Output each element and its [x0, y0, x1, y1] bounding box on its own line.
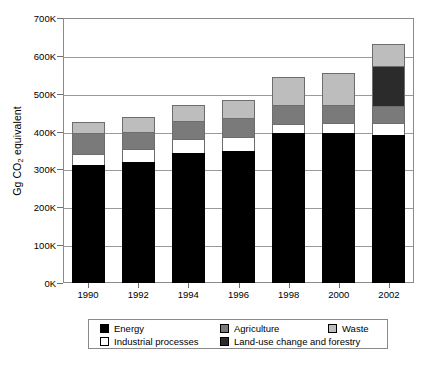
bar-segment-1994-waste[interactable]: [172, 105, 205, 121]
y-tick-label-500K: 500K: [20, 88, 56, 99]
x-tick-mark-1994: [188, 283, 189, 288]
bar-segment-2000-industrial-processes[interactable]: [322, 123, 355, 132]
legend: EnergyAgricultureWaste Industrial proces…: [88, 319, 388, 349]
bar-segment-1996-energy[interactable]: [222, 151, 255, 284]
bars-layer: [63, 18, 414, 283]
legend-item-energy[interactable]: Energy: [100, 324, 144, 334]
legend-swatch-land-use-change-and-forestry: [220, 337, 229, 346]
y-tick-label-700K: 700K: [20, 13, 56, 24]
x-tick-mark-1996: [239, 283, 240, 288]
y-tick-label-300K: 300K: [20, 164, 56, 175]
legend-item-land-use-change-and-forestry[interactable]: Land-use change and forestry: [220, 337, 360, 347]
legend-item-industrial-processes[interactable]: Industrial processes: [100, 337, 198, 347]
y-axis-title-subscript: 2: [16, 158, 25, 163]
legend-row-2: Industrial processesLand-use change and …: [89, 337, 387, 351]
legend-item-agriculture[interactable]: Agriculture: [220, 324, 279, 334]
legend-swatch-waste: [328, 324, 337, 333]
bar-2002[interactable]: [372, 44, 405, 283]
bar-segment-1990-agriculture[interactable]: [72, 133, 105, 154]
bar-segment-1992-agriculture[interactable]: [122, 132, 155, 149]
x-tick-label-1994: 1994: [178, 289, 199, 300]
bar-segment-1994-industrial-processes[interactable]: [172, 139, 205, 153]
bar-segment-1998-energy[interactable]: [272, 133, 305, 283]
y-tick-label-0K: 0K: [20, 278, 56, 289]
bar-segment-1990-industrial-processes[interactable]: [72, 154, 105, 165]
legend-swatch-industrial-processes: [100, 337, 109, 346]
bar-segment-1990-waste[interactable]: [72, 122, 105, 133]
figure-stacked-bar-chart: Gg CO2 equivalent 0K100K200K300K400K500K…: [0, 0, 432, 370]
bar-1992[interactable]: [122, 117, 155, 283]
x-tick-mark-2000: [339, 283, 340, 288]
legend-item-waste[interactable]: Waste: [328, 324, 369, 334]
bar-segment-1998-agriculture[interactable]: [272, 105, 305, 124]
x-tick-mark-1992: [138, 283, 139, 288]
y-tick-label-600K: 600K: [20, 50, 56, 61]
bar-segment-2002-land-use-change-and-forestry[interactable]: [372, 66, 405, 106]
bar-2000[interactable]: [322, 73, 355, 283]
bar-segment-1998-waste[interactable]: [272, 77, 305, 105]
bar-segment-1996-agriculture[interactable]: [222, 118, 255, 137]
bar-segment-1992-energy[interactable]: [122, 162, 155, 283]
bar-segment-1992-industrial-processes[interactable]: [122, 149, 155, 162]
legend-swatch-agriculture: [220, 324, 229, 333]
y-tick-label-400K: 400K: [20, 126, 56, 137]
bar-segment-1994-energy[interactable]: [172, 153, 205, 283]
x-tick-label-1996: 1996: [228, 289, 249, 300]
bar-1990[interactable]: [72, 122, 105, 283]
x-tick-mark-1998: [289, 283, 290, 288]
bar-segment-2000-energy[interactable]: [322, 133, 355, 283]
bar-segment-2002-industrial-processes[interactable]: [372, 123, 405, 135]
legend-label-energy: Energy: [114, 324, 144, 334]
bar-segment-1990-energy[interactable]: [72, 165, 105, 283]
x-tick-label-1992: 1992: [128, 289, 149, 300]
x-tick-label-2000: 2000: [328, 289, 349, 300]
bar-segment-1996-industrial-processes[interactable]: [222, 137, 255, 150]
legend-label-agriculture: Agriculture: [234, 324, 279, 334]
bar-1998[interactable]: [272, 77, 305, 283]
y-tick-mark-0K: [57, 283, 63, 284]
y-axis-title: Gg CO2 equivalent: [11, 51, 23, 251]
bar-segment-2000-waste[interactable]: [322, 73, 355, 105]
x-tick-mark-1990: [88, 283, 89, 288]
legend-label-waste: Waste: [342, 324, 369, 334]
legend-swatch-energy: [100, 324, 109, 333]
legend-label-industrial-processes: Industrial processes: [114, 337, 198, 347]
bar-segment-1998-industrial-processes[interactable]: [272, 124, 305, 133]
bar-segment-1994-agriculture[interactable]: [172, 121, 205, 139]
bar-segment-2000-agriculture[interactable]: [322, 105, 355, 123]
y-tick-label-100K: 100K: [20, 240, 56, 251]
bar-segment-2002-energy[interactable]: [372, 135, 405, 283]
legend-label-land-use-change-and-forestry: Land-use change and forestry: [234, 337, 360, 347]
bar-1996[interactable]: [222, 100, 255, 283]
bar-segment-1996-waste[interactable]: [222, 100, 255, 118]
x-tick-label-1990: 1990: [77, 289, 98, 300]
y-tick-label-200K: 200K: [20, 202, 56, 213]
x-tick-label-1998: 1998: [278, 289, 299, 300]
x-tick-label-2002: 2002: [378, 289, 399, 300]
bar-1994[interactable]: [172, 105, 205, 283]
bar-segment-2002-waste[interactable]: [372, 44, 405, 67]
x-tick-mark-2002: [389, 283, 390, 288]
bar-segment-1992-waste[interactable]: [122, 117, 155, 131]
bar-segment-2002-agriculture[interactable]: [372, 106, 405, 123]
